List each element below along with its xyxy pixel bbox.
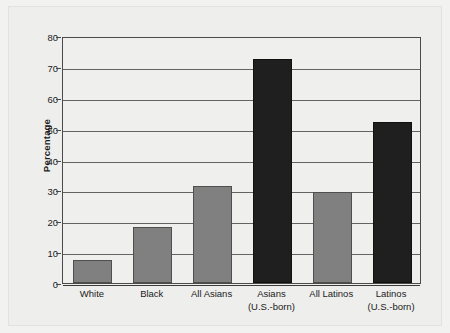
y-tick-mark-60	[56, 99, 61, 100]
y-tick-mark-80	[56, 37, 61, 38]
y-tick-mark-30	[56, 191, 61, 192]
gridline-70	[63, 69, 420, 70]
y-tick-mark-10	[56, 253, 61, 254]
x-label-line1: Asians	[257, 288, 286, 299]
y-tick-mark-70	[56, 68, 61, 69]
bar-latinos-u-s-born	[373, 122, 412, 283]
bar-white	[73, 260, 112, 283]
gridline-0	[63, 285, 420, 286]
x-axis-category-labels: WhiteBlackAll AsiansAsians(U.S.-born)All…	[62, 288, 421, 330]
gridline-40	[63, 162, 420, 163]
bar-black	[133, 227, 172, 283]
y-tick-mark-40	[56, 161, 61, 162]
bar-all-asians	[193, 186, 232, 283]
bar-chart-figure: Percentage 01020304050607080 WhiteBlackA…	[0, 0, 450, 333]
x-label-all-asians: All Asians	[182, 288, 242, 301]
x-label-line1: Latinos	[376, 288, 407, 299]
y-tick-mark-20	[56, 222, 61, 223]
x-label-line2: (U.S.-born)	[361, 301, 421, 314]
bar-asians-u-s-born	[253, 59, 292, 283]
x-label-line1: White	[80, 288, 104, 299]
gridline-30	[63, 192, 420, 193]
gridline-10	[63, 254, 420, 255]
x-label-line1: All Asians	[191, 288, 232, 299]
bar-all-latinos	[313, 192, 352, 283]
y-axis-tick-marks	[0, 37, 62, 284]
gridline-50	[63, 131, 420, 132]
x-label-all-latinos: All Latinos	[301, 288, 361, 301]
x-label-line2: (U.S.-born)	[242, 301, 302, 314]
x-label-line1: Black	[140, 288, 163, 299]
x-label-latinos-u-s-born: Latinos(U.S.-born)	[361, 288, 421, 313]
gridline-60	[63, 100, 420, 101]
y-tick-mark-50	[56, 130, 61, 131]
y-tick-mark-0	[56, 284, 61, 285]
gridline-20	[63, 223, 420, 224]
x-label-line1: All Latinos	[309, 288, 353, 299]
plot-area	[62, 37, 421, 284]
x-label-black: Black	[122, 288, 182, 301]
x-label-asians-u-s-born: Asians(U.S.-born)	[242, 288, 302, 313]
x-label-white: White	[62, 288, 122, 301]
